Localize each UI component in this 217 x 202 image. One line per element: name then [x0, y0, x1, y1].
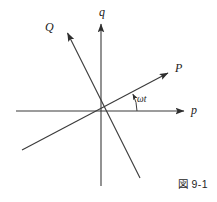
Q-vector-label: Q — [45, 21, 54, 33]
P-vector-label: P — [175, 62, 182, 74]
figure-caption: 図 9-1 — [178, 179, 208, 190]
figure-container: q p P Q ωt 図 9-1 — [0, 0, 217, 202]
p-axis-label: p — [191, 104, 197, 116]
omega-t-angle-label: ωt — [137, 95, 146, 105]
q-axis-label: q — [99, 6, 105, 18]
Q-vector-line — [68, 33, 141, 178]
phasor-diagram — [0, 0, 217, 202]
